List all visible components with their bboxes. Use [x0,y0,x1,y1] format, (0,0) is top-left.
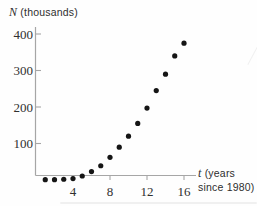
data-point [172,53,177,58]
data-point [98,163,103,168]
y-tick-label: 400 [14,27,34,42]
data-point [70,176,75,181]
x-axis-unit-line2: since 1980) [198,181,254,195]
data-point [107,155,112,160]
x-axis-title: t (years since 1980) [198,167,254,194]
data-point [80,173,85,178]
data-point [163,72,168,77]
y-axis-unit: (thousands) [20,6,78,18]
scatter-plot-figure: 100200300400481216 N (thousands) t (year… [0,0,257,206]
data-point [61,177,66,182]
y-axis-variable: N [9,5,17,19]
x-axis-title-line1: t (years [198,167,254,181]
data-point [89,169,94,174]
x-tick-label: 16 [178,184,192,199]
data-point [52,177,57,182]
y-tick-label: 300 [14,63,34,78]
x-tick-label: 4 [70,184,77,199]
data-point [43,177,48,182]
y-tick-label: 200 [14,100,34,115]
y-axis-title: N (thousands) [9,6,78,20]
data-point [154,88,159,93]
x-axis-unit-line1: (years [205,167,235,179]
y-tick-label: 100 [14,136,34,151]
data-point [181,41,186,46]
data-point [117,145,122,150]
data-point [126,134,131,139]
scan-artifact-bottom-edge [60,202,257,204]
x-axis-variable: t [198,166,202,180]
data-point [135,121,140,126]
data-point [144,105,149,110]
x-tick-label: 8 [107,184,114,199]
x-tick-label: 12 [141,184,154,199]
